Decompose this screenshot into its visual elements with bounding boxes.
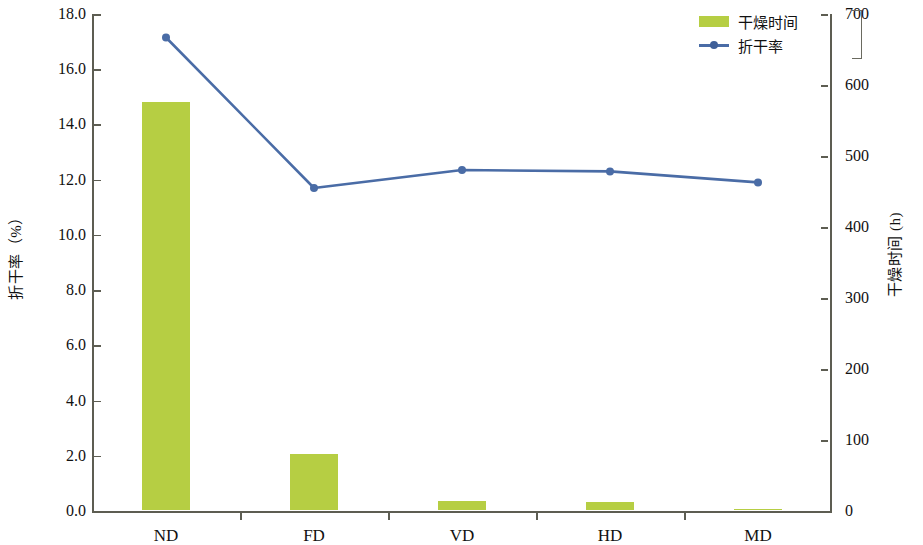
left-tick-label: 10.0 bbox=[58, 227, 86, 243]
legend-label-dry-rate: 折干率 bbox=[738, 35, 783, 56]
left-tick-label: 0.0 bbox=[66, 503, 86, 519]
dry-rate-marker bbox=[162, 34, 170, 42]
dry-rate-marker bbox=[606, 167, 614, 175]
left-tick-label: 18.0 bbox=[58, 6, 86, 22]
dry-rate-marker bbox=[754, 178, 762, 186]
line-series-dry-rate bbox=[92, 14, 832, 513]
x-axis-category-label: HD bbox=[570, 526, 650, 545]
left-tick-label: 6.0 bbox=[66, 337, 86, 353]
right-tick-label: 300 bbox=[845, 290, 869, 306]
dry-rate-marker bbox=[458, 166, 466, 174]
right-axis-tick-labels: 0100200300400500600700 bbox=[845, 0, 905, 535]
x-axis-category-label: ND bbox=[126, 526, 206, 545]
right-tick-label: 0 bbox=[845, 503, 853, 519]
plot-area: NDFDVDHDMD bbox=[92, 14, 832, 512]
legend-item-dry-rate: 折干率 bbox=[699, 33, 844, 57]
x-axis-category-label: FD bbox=[274, 526, 354, 545]
left-axis-tick-labels: 0.02.04.06.08.010.012.014.016.018.0 bbox=[18, 0, 86, 535]
left-tick-label: 4.0 bbox=[66, 393, 86, 409]
dry-rate-markers bbox=[162, 34, 762, 193]
left-tick-label: 8.0 bbox=[66, 282, 86, 298]
legend-bracket bbox=[852, 10, 862, 59]
legend-label-drying-time: 干燥时间 bbox=[738, 11, 798, 32]
left-tick-label: 16.0 bbox=[58, 61, 86, 77]
legend-line-marker-icon bbox=[699, 40, 729, 51]
bottom-tickmark bbox=[240, 513, 242, 520]
right-tick-label: 400 bbox=[845, 219, 869, 235]
legend-item-drying-time: 干燥时间 bbox=[699, 9, 844, 33]
right-tick-label: 500 bbox=[845, 148, 869, 164]
bottom-tickmark bbox=[388, 513, 390, 520]
x-axis-category-label: VD bbox=[422, 526, 502, 545]
legend-bar-swatch-icon bbox=[699, 16, 729, 27]
left-tick-label: 12.0 bbox=[58, 172, 86, 188]
dry-rate-marker bbox=[310, 184, 318, 192]
left-tick-label: 2.0 bbox=[66, 448, 86, 464]
bottom-tickmark bbox=[536, 513, 538, 520]
x-axis-category-label: MD bbox=[718, 526, 798, 545]
bottom-tickmark bbox=[684, 513, 686, 520]
dry-rate-polyline bbox=[166, 38, 758, 189]
left-tick-label: 14.0 bbox=[58, 116, 86, 132]
right-tick-label: 200 bbox=[845, 361, 869, 377]
legend: 干燥时间 折干率 bbox=[699, 9, 844, 59]
right-tick-label: 100 bbox=[845, 432, 869, 448]
right-tick-label: 600 bbox=[845, 77, 869, 93]
